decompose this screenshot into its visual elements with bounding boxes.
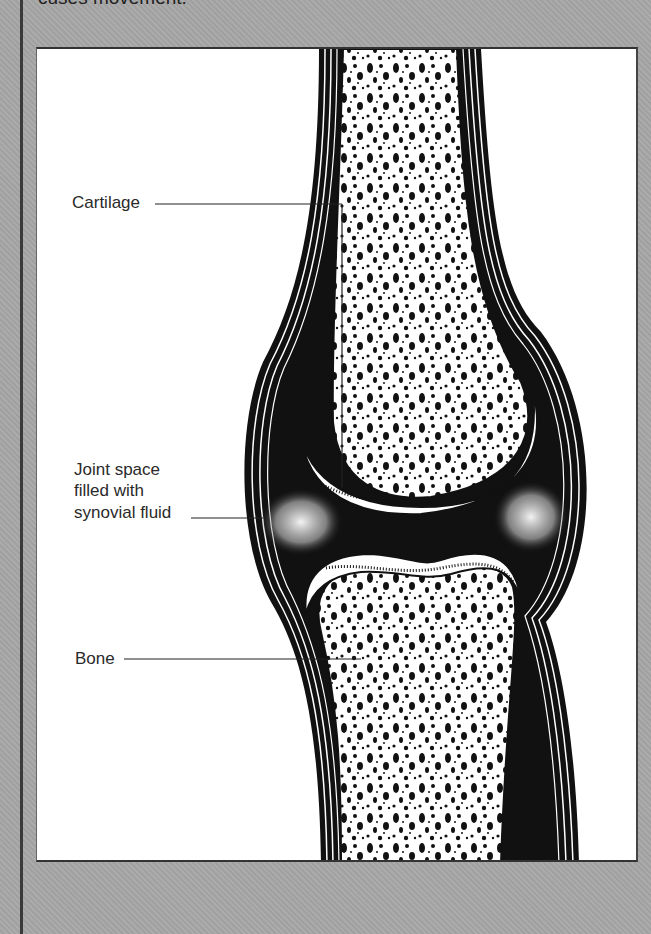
- label-bone: Bone: [75, 648, 115, 669]
- label-cartilage: Cartilage: [72, 192, 140, 213]
- label-joint-space-line1: Joint space: [74, 459, 160, 480]
- label-joint-space-line2: filled with: [74, 480, 144, 501]
- lower-bone: [318, 566, 515, 862]
- left-border-rule: [20, 0, 23, 934]
- label-joint-space-line3: synovial fluid: [74, 502, 171, 523]
- synovial-fluid-right: [493, 481, 569, 553]
- joint-diagram-figure: Cartilage Joint space filled with synovi…: [36, 47, 638, 862]
- synovial-joint-illustration: [37, 49, 638, 862]
- page-panel: cuses movement.: [0, 0, 651, 934]
- synovial-fluid-left: [259, 488, 343, 556]
- truncated-caption-text: cuses movement.: [38, 0, 187, 9]
